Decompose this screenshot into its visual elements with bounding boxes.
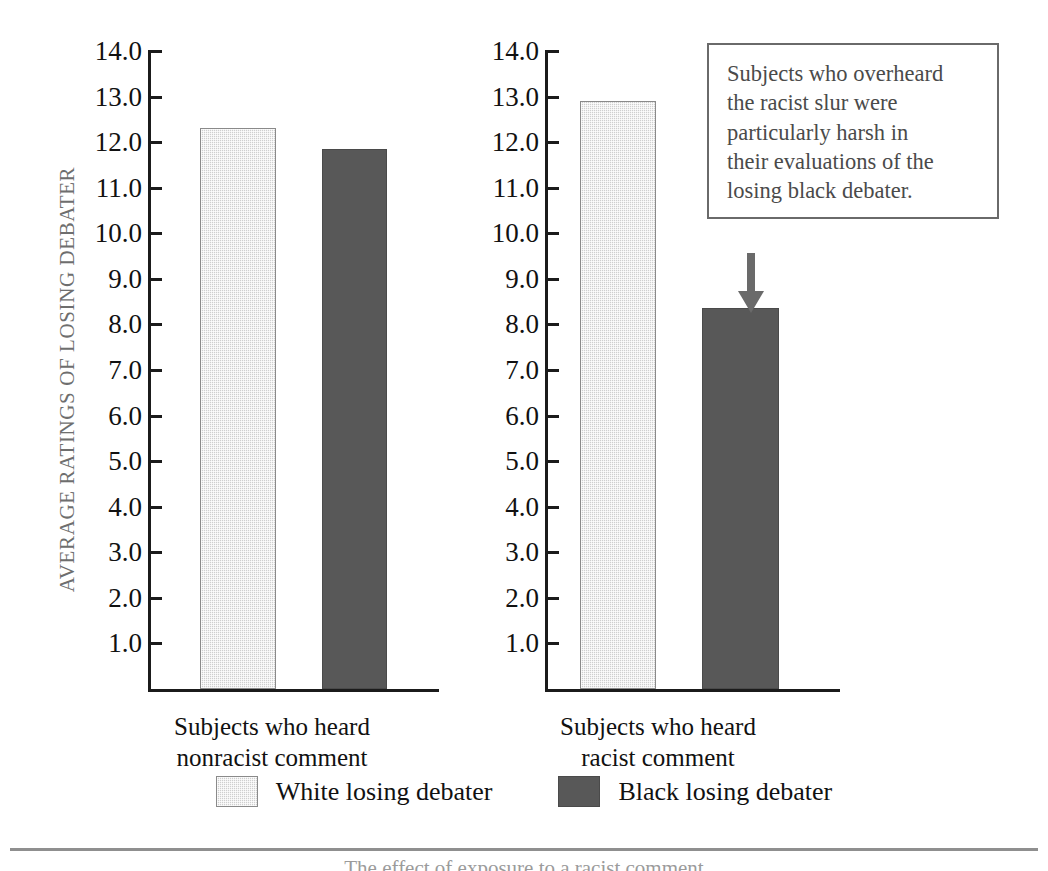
bar-white-nonracist — [200, 128, 276, 689]
footer-divider — [10, 848, 1038, 851]
left-axis-column: 14.013.012.011.010.09.08.07.06.05.04.03.… — [60, 40, 440, 700]
y-tick-mark — [148, 415, 162, 418]
white-swatch-icon — [216, 776, 258, 807]
y-tick-mark — [545, 551, 559, 554]
y-tick-mark — [148, 551, 162, 554]
y-tick-label: 3.0 — [465, 539, 539, 566]
y-tick-mark — [545, 369, 559, 372]
y-tick-mark — [148, 232, 162, 235]
callout-line-5: losing black debater. — [727, 176, 981, 205]
panel-nonracist: 14.013.012.011.010.09.08.07.06.05.04.03.… — [60, 40, 440, 700]
category-label-racist: Subjects who heard racist comment — [498, 712, 818, 773]
y-tick-label: 10.0 — [465, 220, 539, 247]
chart-legend: White losing debater Black losing debate… — [0, 776, 1048, 807]
left-x-axis-baseline — [148, 689, 439, 692]
y-tick-label: 4.0 — [465, 493, 539, 520]
chart-figure: AVERAGE RATINGS OF LOSING DEBATER 14.013… — [0, 0, 1048, 871]
y-tick-mark — [545, 96, 559, 99]
legend-label-white: White losing debater — [276, 777, 493, 807]
callout-line-4: their evaluations of the — [727, 147, 981, 176]
bar-black-nonracist — [322, 149, 387, 689]
y-tick-mark — [545, 141, 559, 144]
y-tick-label: 10.0 — [68, 220, 142, 247]
y-tick-label: 3.0 — [68, 539, 142, 566]
bar-black-racist — [702, 308, 779, 689]
y-tick-label: 13.0 — [68, 83, 142, 110]
black-swatch-icon — [558, 776, 600, 807]
y-tick-label: 14.0 — [465, 38, 539, 65]
y-tick-label: 7.0 — [68, 357, 142, 384]
y-tick-mark — [545, 232, 559, 235]
y-tick-mark — [545, 642, 559, 645]
y-tick-mark — [545, 187, 559, 190]
right-x-axis-baseline — [545, 689, 840, 692]
y-tick-label: 1.0 — [68, 630, 142, 657]
y-tick-mark — [545, 323, 559, 326]
y-tick-mark — [545, 415, 559, 418]
category-label-line2: racist comment — [498, 743, 818, 774]
callout-line-1: Subjects who overheard — [727, 59, 981, 88]
y-tick-label: 9.0 — [465, 265, 539, 292]
y-tick-mark — [545, 50, 559, 53]
footer-caption: The effect of exposure to a racist comme… — [0, 856, 1048, 871]
y-tick-mark — [545, 597, 559, 600]
y-tick-label: 8.0 — [465, 311, 539, 338]
y-tick-label: 13.0 — [465, 83, 539, 110]
legend-label-black: Black losing debater — [618, 777, 832, 807]
y-tick-mark — [148, 506, 162, 509]
callout-arrow-icon — [736, 253, 766, 315]
y-tick-label: 8.0 — [68, 311, 142, 338]
y-tick-label: 4.0 — [68, 493, 142, 520]
y-tick-mark — [545, 278, 559, 281]
y-tick-label: 12.0 — [68, 129, 142, 156]
legend-item-black: Black losing debater — [558, 776, 832, 807]
callout-line-2: the racist slur were — [727, 88, 981, 117]
y-tick-mark — [148, 597, 162, 600]
callout-line-3: particularly harsh in — [727, 118, 981, 147]
category-label-line2: nonracist comment — [112, 743, 432, 774]
category-label-nonracist: Subjects who heard nonracist comment — [112, 712, 432, 773]
y-tick-label: 1.0 — [465, 630, 539, 657]
y-tick-mark — [148, 460, 162, 463]
y-tick-mark — [148, 141, 162, 144]
y-tick-label: 6.0 — [465, 402, 539, 429]
category-label-line1: Subjects who heard — [498, 712, 818, 743]
y-tick-mark — [148, 323, 162, 326]
y-tick-label: 12.0 — [465, 129, 539, 156]
annotation-callout: Subjects who overheard the racist slur w… — [707, 43, 999, 219]
y-tick-mark — [545, 460, 559, 463]
y-tick-label: 5.0 — [465, 448, 539, 475]
y-tick-label: 11.0 — [465, 174, 539, 201]
y-tick-mark — [148, 50, 162, 53]
bar-white-racist — [580, 101, 656, 689]
y-tick-mark — [148, 642, 162, 645]
category-label-line1: Subjects who heard — [112, 712, 432, 743]
legend-item-white: White losing debater — [216, 776, 493, 807]
y-tick-label: 6.0 — [68, 402, 142, 429]
y-tick-mark — [148, 96, 162, 99]
y-tick-mark — [148, 369, 162, 372]
y-tick-mark — [148, 187, 162, 190]
y-tick-label: 11.0 — [68, 174, 142, 201]
y-tick-label: 9.0 — [68, 265, 142, 292]
y-tick-label: 7.0 — [465, 357, 539, 384]
y-tick-mark — [148, 278, 162, 281]
y-tick-label: 2.0 — [68, 584, 142, 611]
y-tick-label: 5.0 — [68, 448, 142, 475]
y-tick-label: 2.0 — [465, 584, 539, 611]
y-tick-mark — [545, 506, 559, 509]
y-tick-label: 14.0 — [68, 38, 142, 65]
